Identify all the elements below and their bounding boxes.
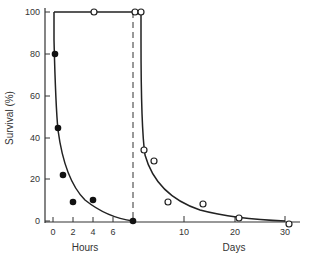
y-tick-label: 100 <box>25 7 40 17</box>
hours-tick-label: 2 <box>70 227 75 237</box>
open-points <box>91 9 292 227</box>
hours-ticks: 0 2 4 6 <box>50 217 115 237</box>
hours-tick-label: 4 <box>90 227 95 237</box>
y-ticks: 0 20 40 60 80 100 <box>25 7 50 226</box>
y-axis-label: Survival (%) <box>4 91 15 145</box>
y-tick-label: 80 <box>30 49 40 59</box>
hours-tick-label: 0 <box>50 227 55 237</box>
hours-decay-curve <box>54 12 133 221</box>
y-tick-label: 20 <box>30 174 40 184</box>
hours-tick-label: 6 <box>110 227 115 237</box>
days-tick-label: 30 <box>280 227 290 237</box>
y-tick-label: 0 <box>35 216 40 226</box>
days-tick-label: 20 <box>230 227 240 237</box>
days-ticks: 10 20 30 <box>179 216 290 237</box>
days-decay-curve <box>54 12 285 221</box>
closed-points <box>52 51 137 225</box>
days-axis-label: Days <box>223 242 246 253</box>
y-tick-label: 60 <box>30 91 40 101</box>
hours-axis-label: Hours <box>72 242 99 253</box>
days-tick-label: 10 <box>179 227 189 237</box>
survival-chart: 0 20 40 60 80 100 Survival (%) 0 2 4 6 H… <box>0 0 309 259</box>
y-tick-label: 40 <box>30 133 40 143</box>
